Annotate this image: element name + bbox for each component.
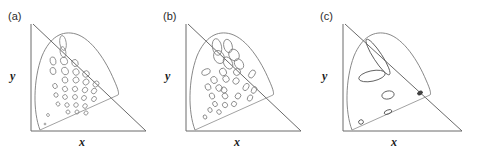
ellipse xyxy=(384,109,393,116)
panel-c-ellipses xyxy=(358,37,423,125)
ellipse xyxy=(212,101,219,108)
panel-a-spectral-locus xyxy=(35,33,119,130)
panel-c-spectral-locus xyxy=(347,33,431,130)
ellipse xyxy=(44,123,46,125)
ellipse xyxy=(204,83,212,91)
ellipse xyxy=(90,87,98,95)
ellipse xyxy=(61,85,68,92)
ellipse xyxy=(72,94,79,101)
ellipse xyxy=(49,67,57,76)
ellipse xyxy=(216,109,222,115)
ellipse xyxy=(52,83,58,90)
ellipse xyxy=(232,77,241,86)
ellipse xyxy=(49,56,57,66)
ellipse xyxy=(358,119,364,125)
ellipse xyxy=(208,92,215,100)
ellipse xyxy=(64,102,70,108)
ellipse xyxy=(234,92,242,100)
ellipse xyxy=(72,68,81,77)
ellipse xyxy=(221,101,228,108)
panel-c: (c) y x xyxy=(312,0,472,162)
ellipse xyxy=(221,92,229,100)
ellipse xyxy=(247,69,257,79)
panel-b-plot xyxy=(155,0,315,162)
panel-c-axes xyxy=(343,24,462,131)
ellipse xyxy=(232,67,242,77)
ellipse xyxy=(242,82,250,91)
ellipse xyxy=(207,107,213,113)
ellipse xyxy=(83,110,89,116)
panel-a: (a) y x xyxy=(0,0,160,162)
panel-c-plot xyxy=(312,0,472,162)
ellipse xyxy=(81,86,89,94)
ellipse xyxy=(230,100,237,107)
ellipse xyxy=(363,37,393,77)
ellipse xyxy=(381,90,395,100)
ellipse xyxy=(210,75,219,84)
panel-b-purple-line xyxy=(195,95,273,130)
ellipse xyxy=(203,114,208,119)
panel-a-axes xyxy=(31,24,146,131)
ellipse xyxy=(82,78,91,86)
ellipse xyxy=(71,85,78,92)
ellipse xyxy=(61,76,69,84)
ellipse xyxy=(53,92,59,98)
ellipse xyxy=(81,95,88,102)
ellipse xyxy=(201,68,212,77)
panel-a-plot xyxy=(0,0,160,162)
ellipse xyxy=(358,68,387,84)
ellipse xyxy=(72,76,80,84)
ellipse xyxy=(60,66,69,76)
panel-b-axes xyxy=(186,24,301,131)
figure-container: (a) y x xyxy=(0,0,480,162)
ellipse xyxy=(46,113,49,117)
ellipse xyxy=(250,86,258,95)
ellipse xyxy=(246,94,253,102)
ellipse xyxy=(73,102,79,108)
ellipse xyxy=(222,38,234,53)
ellipse xyxy=(55,101,60,106)
ellipse xyxy=(62,94,69,101)
ellipse xyxy=(227,47,242,63)
panel-b: (b) y x xyxy=(155,0,315,162)
ellipse xyxy=(91,96,98,103)
panel-b-ellipses xyxy=(201,38,258,120)
panel-b-spectral-locus xyxy=(190,33,274,130)
ellipse xyxy=(82,103,88,109)
ellipse xyxy=(65,109,70,115)
